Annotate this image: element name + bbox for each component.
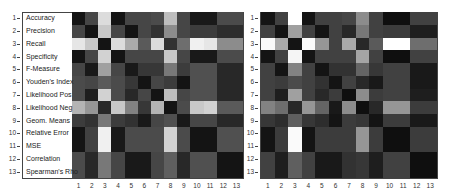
heatmap-cell	[98, 25, 111, 38]
x-tick-label: 10	[191, 182, 203, 190]
heatmap-cell	[98, 89, 111, 102]
y-tick-label: 10	[4, 129, 16, 137]
heatmap-cell	[423, 12, 437, 25]
y-tick-label: 11	[4, 142, 16, 150]
y-tick-label: 8	[242, 104, 254, 112]
heatmap-cell	[302, 76, 316, 89]
heatmap-cell	[342, 152, 356, 165]
y-tick-label: 3	[4, 40, 16, 48]
heatmap-cell	[383, 127, 397, 140]
y-tick-label: 5	[4, 65, 16, 73]
heatmap-cell	[302, 12, 316, 25]
heatmap-cell	[204, 89, 217, 102]
heatmap-cell	[356, 38, 370, 51]
heatmap-cell	[125, 76, 138, 89]
heatmap-cell	[369, 127, 383, 140]
heatmap-cell	[151, 101, 164, 114]
heatmap-cell	[329, 38, 343, 51]
heatmap-cell	[275, 114, 289, 127]
heatmap-cell	[230, 38, 243, 51]
metric-row-label: Specificity	[26, 53, 58, 61]
heatmap-cell	[72, 63, 85, 76]
heatmap-cell	[204, 140, 217, 153]
x-tick-label: 4	[302, 182, 314, 190]
y-tick-label: 8	[4, 104, 16, 112]
heatmap-cell	[164, 89, 177, 102]
heatmap-cell	[315, 152, 329, 165]
heatmap-cell	[164, 114, 177, 127]
heatmap-cell	[315, 38, 329, 51]
heatmap-cell	[85, 140, 98, 153]
x-tick-label: 2	[275, 182, 287, 190]
heatmap-cell	[423, 152, 437, 165]
heatmap-cell	[72, 140, 85, 153]
heatmap-cell	[204, 38, 217, 51]
heatmap-cell	[177, 89, 190, 102]
heatmap-cell	[217, 127, 230, 140]
heatmap-cell	[396, 76, 410, 89]
heatmap-cell	[230, 76, 243, 89]
y-tick-label: 1	[4, 14, 16, 22]
heatmap-cell	[383, 89, 397, 102]
heatmap-cell	[261, 114, 275, 127]
heatmap-cell	[342, 76, 356, 89]
x-tick-label: 3	[99, 182, 111, 190]
heatmap-cell	[190, 50, 203, 63]
heatmap-cell	[275, 89, 289, 102]
heatmap-cell	[85, 63, 98, 76]
x-tick-label: 7	[152, 182, 164, 190]
heatmap-cell	[164, 140, 177, 153]
heatmap-cell	[410, 89, 424, 102]
heatmap-cell	[164, 12, 177, 25]
heatmap-cell	[261, 25, 275, 38]
heatmap-cell	[190, 101, 203, 114]
heatmap-cell	[315, 140, 329, 153]
heatmap-cell	[410, 127, 424, 140]
heatmap-cell	[125, 12, 138, 25]
heatmap-cell	[177, 140, 190, 153]
heatmap-cell	[423, 63, 437, 76]
y-tick-label: 7	[242, 91, 254, 99]
heatmap-cell	[138, 152, 151, 165]
heatmap-cell	[356, 101, 370, 114]
heatmap-cell	[342, 12, 356, 25]
heatmap-cell	[190, 38, 203, 51]
heatmap-cell	[111, 101, 124, 114]
heatmap-cell	[151, 12, 164, 25]
heatmap-cell	[125, 63, 138, 76]
heatmap-cell	[164, 127, 177, 140]
heatmap-cell	[98, 63, 111, 76]
metric-row-label: Youden's Index	[26, 78, 73, 86]
heatmap-cell	[85, 165, 98, 178]
heatmap-cell	[302, 63, 316, 76]
heatmap-cell	[275, 12, 289, 25]
heatmap-cell	[164, 50, 177, 63]
heatmap-cell	[261, 63, 275, 76]
heatmap-cell	[85, 12, 98, 25]
heatmap-cell	[72, 76, 85, 89]
heatmap-cell	[177, 76, 190, 89]
heatmap-cell	[423, 76, 437, 89]
heatmap-cell	[342, 101, 356, 114]
heatmap-cell	[356, 50, 370, 63]
heatmap-cell	[138, 50, 151, 63]
heatmap-cell	[190, 152, 203, 165]
heatmap-cell	[138, 89, 151, 102]
heatmap-cell	[125, 152, 138, 165]
heatmap-cell	[275, 63, 289, 76]
x-tick-label: 9	[370, 182, 382, 190]
heatmap-cell	[261, 101, 275, 114]
x-tick-label: 2	[86, 182, 98, 190]
heatmap-cell	[230, 165, 243, 178]
heatmap-cell	[302, 127, 316, 140]
heatmap-cell	[138, 38, 151, 51]
metric-row-label: Accuracy	[26, 14, 55, 22]
heatmap-cell	[288, 25, 302, 38]
x-tick-label: 6	[329, 182, 341, 190]
heatmap-cell	[261, 152, 275, 165]
heatmap-cell	[342, 140, 356, 153]
heatmap-cell	[164, 152, 177, 165]
heatmap-cell	[369, 152, 383, 165]
heatmap-cell	[164, 38, 177, 51]
heatmap-cell	[369, 89, 383, 102]
